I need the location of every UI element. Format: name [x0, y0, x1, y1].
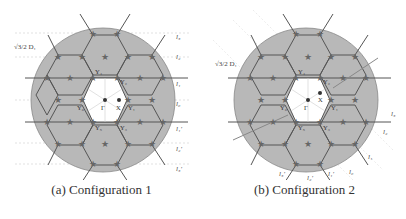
- line-label-l1p: l₁': [176, 125, 182, 133]
- svg-text:★: ★: [148, 52, 156, 62]
- point-gamma: Γ: [304, 104, 308, 111]
- svg-text:★: ★: [316, 29, 324, 39]
- lattice-diagram-1: ★★ ★★★★★ ★★★★★★ ★★★★ ★★★★★★ ★★★★★ ★★: [0, 0, 203, 180]
- point-gamma: Γ: [101, 104, 105, 111]
- point-y1: Y₁: [331, 104, 338, 111]
- svg-text:★: ★: [327, 52, 335, 62]
- svg-text:★: ★: [148, 95, 156, 105]
- point-y2: Y₂: [323, 78, 330, 85]
- svg-text:★: ★: [327, 139, 335, 149]
- svg-text:★: ★: [304, 139, 312, 149]
- svg-text:★: ★: [246, 73, 254, 83]
- figure-configuration-2: ★★ ★★★★★ ★★★★★★ ★★★★ ★★★★★★ ★★★★★ ★★ √3/…: [203, 0, 406, 219]
- svg-text:★: ★: [159, 73, 167, 83]
- point-y6: Y₆: [77, 104, 84, 111]
- point-y3: Y₃: [120, 124, 127, 131]
- svg-text:★: ★: [43, 117, 51, 127]
- svg-text:★: ★: [292, 159, 300, 169]
- svg-text:★: ★: [101, 139, 109, 149]
- svg-text:★: ★: [269, 117, 277, 127]
- caption-configuration-1: (a) Configuration 1: [0, 182, 203, 198]
- scale-label: √3/2 D₁: [14, 43, 36, 51]
- svg-text:★: ★: [351, 95, 359, 105]
- svg-text:★: ★: [246, 117, 254, 127]
- svg-text:★: ★: [54, 139, 62, 149]
- line-label-l3p: l₃': [176, 165, 182, 173]
- point-y5: Y₅: [95, 124, 102, 131]
- svg-text:★: ★: [281, 139, 289, 149]
- line-label-l2p: l₂': [176, 145, 182, 153]
- line-label-l1p: l₁': [328, 170, 334, 178]
- line-label-l1: l₁: [368, 153, 372, 161]
- svg-text:★: ★: [113, 159, 121, 169]
- svg-text:★: ★: [316, 159, 324, 169]
- line-label-l2: l₂: [176, 53, 180, 61]
- svg-text:★: ★: [339, 73, 347, 83]
- point-x: X: [318, 96, 323, 103]
- svg-text:★: ★: [257, 95, 265, 105]
- svg-text:★: ★: [43, 73, 51, 83]
- svg-text:★: ★: [54, 95, 62, 105]
- svg-text:★: ★: [124, 52, 132, 62]
- point-y3: Y₃: [323, 124, 330, 131]
- svg-text:★: ★: [159, 117, 167, 127]
- svg-text:★: ★: [89, 159, 97, 169]
- line-label-l0: l₀: [176, 100, 180, 108]
- svg-text:★: ★: [281, 52, 289, 62]
- svg-text:★: ★: [304, 52, 312, 62]
- svg-text:★: ★: [136, 117, 144, 127]
- svg-text:★: ★: [292, 29, 300, 39]
- point-y5: Y₅: [298, 124, 305, 131]
- line-label-l2p: l₂': [307, 174, 313, 182]
- svg-text:★: ★: [351, 139, 359, 149]
- svg-text:★: ★: [101, 52, 109, 62]
- point-y2: Y₂: [120, 78, 127, 85]
- caption-configuration-2: (b) Configuration 2: [203, 182, 406, 198]
- svg-text:★: ★: [257, 139, 265, 149]
- line-label-l0: l₀: [349, 168, 353, 176]
- svg-text:★: ★: [148, 139, 156, 149]
- svg-text:★: ★: [136, 73, 144, 83]
- svg-text:★: ★: [351, 52, 359, 62]
- svg-text:★: ★: [66, 73, 74, 83]
- line-label-l3: l₃: [391, 110, 395, 118]
- svg-text:★: ★: [78, 139, 86, 149]
- svg-text:★: ★: [54, 52, 62, 62]
- point-y4: Y₄: [95, 68, 102, 75]
- scale-label: √3/2 D₁: [215, 60, 237, 68]
- figure-configuration-1: ★★ ★★★★★ ★★★★★★ ★★★★ ★★★★★★ ★★★★★ ★★ √3/…: [0, 0, 203, 219]
- line-label-l3: l₃: [176, 33, 180, 41]
- svg-text:★: ★: [362, 73, 370, 83]
- svg-text:★: ★: [89, 29, 97, 39]
- point-x: X: [116, 104, 121, 111]
- svg-text:★: ★: [269, 73, 277, 83]
- lattice-diagram-2: ★★ ★★★★★ ★★★★★★ ★★★★ ★★★★★★ ★★★★★ ★★: [203, 0, 406, 180]
- point-y4: Y₄: [298, 68, 305, 75]
- svg-text:★: ★: [78, 52, 86, 62]
- line-label-l1: l₁: [176, 80, 180, 88]
- line-label-l3p: l₃': [279, 170, 285, 178]
- point-y1: Y₁: [128, 104, 135, 111]
- svg-text:★: ★: [124, 139, 132, 149]
- line-label-l2: l₂: [383, 128, 387, 136]
- svg-text:★: ★: [362, 117, 370, 127]
- point-y6: Y₆: [280, 104, 287, 111]
- svg-text:★: ★: [339, 117, 347, 127]
- svg-text:★: ★: [113, 29, 121, 39]
- svg-text:★: ★: [257, 52, 265, 62]
- svg-text:★: ★: [66, 117, 74, 127]
